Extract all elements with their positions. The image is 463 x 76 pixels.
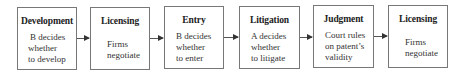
- stage-title: Licensing: [91, 16, 149, 26]
- stage-entry: Entry B decides whether to enter: [164, 6, 224, 69]
- stage-licensing-2: Licensing Firms negotiate: [388, 5, 448, 68]
- stage-litigation: Litigation A decides whether to litigate: [239, 6, 300, 69]
- arrow-3: [224, 37, 238, 38]
- stage-description: B decides whether to enter: [176, 31, 221, 64]
- stage-licensing-1: Licensing Firms negotiate: [90, 7, 150, 70]
- stage-judgment: Judgment Court rules on patent’s validit…: [313, 5, 374, 68]
- stage-description: Firms negotiate: [107, 39, 147, 61]
- stage-title: Entry: [165, 15, 223, 25]
- stage-title: Litigation: [240, 15, 299, 25]
- stage-description: B decides whether to develop: [30, 32, 74, 65]
- arrow-2: [150, 38, 163, 39]
- arrow-4: [300, 37, 312, 38]
- stage-title: Licensing: [389, 14, 447, 24]
- stage-development: Development B decides whether to develop: [17, 7, 77, 70]
- arrow-1: [77, 38, 89, 39]
- arrow-5: [374, 36, 387, 37]
- stage-description: A decides whether to litigate: [251, 31, 297, 64]
- stage-description: Court rules on patent’s validity: [325, 30, 371, 63]
- stage-title: Judgment: [314, 14, 373, 24]
- stage-description: Firms negotiate: [405, 37, 445, 59]
- stage-title: Development: [18, 16, 76, 26]
